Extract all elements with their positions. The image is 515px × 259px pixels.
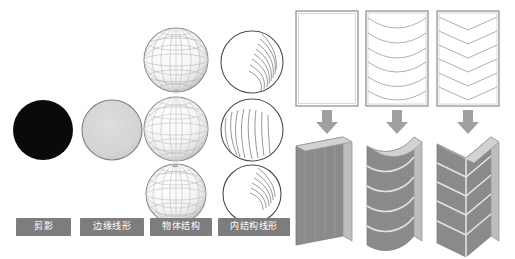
internal-structure-circle-3 <box>223 165 281 223</box>
faceted-slab <box>437 137 499 257</box>
object-structure-globe-2 <box>144 95 208 163</box>
blank-flat-sheet <box>296 11 358 106</box>
label-badge-internal-structure: 内结构线形 <box>218 218 290 236</box>
internal-structure-circle-1 <box>221 31 283 93</box>
figure-canvas: 剪影 边缘线形 物体结构 内结构线形 <box>0 0 515 259</box>
curved-line-sheet <box>366 11 428 106</box>
chevron-line-sheet <box>437 11 499 106</box>
silhouette-circle <box>13 100 73 160</box>
down-arrow-1 <box>316 110 338 134</box>
curved-slab <box>367 137 422 251</box>
label-badge-edge-line: 边缘线形 <box>80 218 144 236</box>
down-arrow-3 <box>457 110 479 134</box>
object-structure-globe-3 <box>146 162 206 225</box>
down-arrow-2 <box>386 110 408 134</box>
internal-structure-circle-2 <box>221 99 283 161</box>
flat-slab <box>296 137 352 245</box>
edge-line-circle <box>82 100 142 160</box>
object-structure-globe-1 <box>144 25 208 94</box>
label-badge-object-structure: 物体结构 <box>150 218 212 236</box>
label-badge-silhouette: 剪影 <box>16 218 71 236</box>
